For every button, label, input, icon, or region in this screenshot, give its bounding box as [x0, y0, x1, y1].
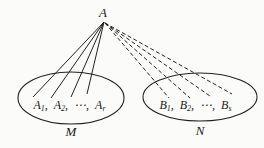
set-mapping-diagram: A A1, A2, ⋯, Ar B1, B2, ⋯, Bs M N: [0, 0, 264, 148]
set-member: B2,: [180, 98, 200, 112]
set-member: Bs: [221, 98, 234, 112]
apex-node-label: A: [95, 6, 111, 19]
diagram-canvas: [0, 0, 264, 148]
set-member: A1,: [33, 98, 53, 112]
edge-A-to-Bs: [105, 23, 232, 94]
set-member: Ar: [95, 98, 108, 112]
set-N-label: N: [185, 124, 215, 137]
set-member: B1,: [159, 98, 179, 112]
edge-A-to-A2: [51, 22, 104, 98]
set-member: ⋯,: [200, 98, 221, 112]
set-M-label: M: [56, 125, 86, 138]
edge-A-to-A1: [33, 22, 104, 97]
set-N-ellipse: [143, 73, 257, 121]
edge-A-to-A-dots: [71, 22, 104, 97]
set-member: A2,: [54, 98, 74, 112]
edge-A-to-Ar: [87, 22, 104, 94]
set-N-members: B1, B2, ⋯, Bs: [145, 99, 249, 112]
set-M-members: A1, A2, ⋯, Ar: [19, 99, 123, 112]
set-member: ⋯,: [74, 98, 95, 112]
